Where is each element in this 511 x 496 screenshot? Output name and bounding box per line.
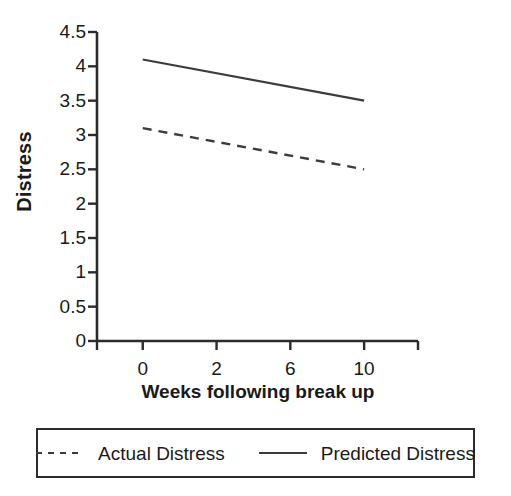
legend: Actual DistressPredicted Distress xyxy=(36,428,475,478)
x-axis-title: Weeks following break up xyxy=(97,381,419,403)
x-axis-tick-label: 10 xyxy=(334,359,394,378)
legend-item[interactable]: Predicted Distress xyxy=(259,444,475,463)
legend-item-label: Actual Distress xyxy=(98,444,225,463)
x-axis-tick-label: 6 xyxy=(260,359,320,378)
x-axis-tick-label: 2 xyxy=(187,359,247,378)
legend-items: Actual DistressPredicted Distress xyxy=(38,430,473,476)
solid-line-icon xyxy=(259,447,307,459)
x-axis-tick-labels: 02610 xyxy=(0,0,511,496)
legend-item-label: Predicted Distress xyxy=(321,444,475,463)
distress-line-chart: Distress 00.511.522.533.544.5 02610 Week… xyxy=(0,0,511,496)
dashed-line-icon xyxy=(36,447,84,459)
x-axis-tick-label: 0 xyxy=(113,359,173,378)
legend-item[interactable]: Actual Distress xyxy=(36,444,225,463)
